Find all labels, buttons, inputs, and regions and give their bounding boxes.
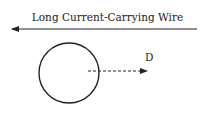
wire-label: Long Current-Carrying Wire	[0, 11, 203, 23]
distance-label: D	[145, 51, 153, 63]
circular-loop	[39, 43, 99, 103]
